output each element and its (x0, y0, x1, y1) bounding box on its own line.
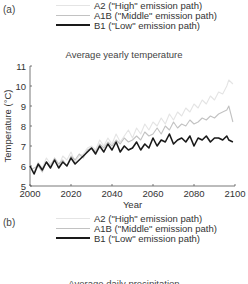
axes: 567891011200020202040206020802100YearTem… (2, 61, 246, 211)
legend-swatch-b1 (56, 237, 90, 239)
data-lines (30, 80, 233, 174)
series-line-0 (30, 80, 233, 172)
x-tick-label: 2080 (183, 188, 204, 199)
legend-item-a1b: A1B ("Middle" emission path) (56, 223, 217, 233)
y-tick-label: 11 (16, 61, 26, 72)
legend-swatch-a2 (56, 218, 90, 219)
panel-b-title: Average daily precipitation (0, 278, 248, 284)
x-tick-label: 2100 (224, 188, 245, 199)
x-tick-label: 2060 (142, 188, 163, 199)
legend-item-b1: B1 ("Low" emission path) (56, 233, 217, 243)
panel-b-label: (b) (3, 217, 15, 228)
y-tick-label: 7 (21, 141, 26, 152)
x-tick-label: 2020 (60, 188, 81, 199)
x-tick-label: 2040 (101, 188, 122, 199)
y-tick-label: 6 (21, 161, 26, 172)
y-tick-label: 8 (21, 121, 26, 132)
legend-item-a2: A2 ("High" emission path) (56, 213, 217, 223)
y-tick-label: 9 (21, 101, 26, 112)
legend-swatch-a1b (56, 228, 90, 229)
y-tick-label: 10 (15, 81, 26, 92)
panel-b-legend: A2 ("High" emission path) A1B ("Middle" … (56, 213, 217, 243)
x-tick-label: 2000 (19, 188, 40, 199)
legend-label-b1: B1 ("Low" emission path) (94, 233, 200, 244)
y-axis-label: Temperature (°C) (2, 90, 13, 163)
x-axis-label: Year (123, 199, 142, 210)
